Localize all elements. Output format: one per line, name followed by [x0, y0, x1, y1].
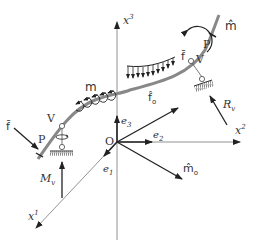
x1-label: x1	[28, 209, 39, 223]
reaction-left-label: Mv	[39, 172, 55, 187]
rod-curve	[38, 15, 219, 159]
e1-label: e1	[103, 163, 113, 177]
e3-label: e3	[121, 115, 132, 129]
origin-force-label: f̂o	[148, 91, 156, 106]
distributed-force-label: f̄	[181, 50, 186, 63]
end-force-left-arrow	[14, 128, 38, 149]
rod-diagram: x3 x2 x1 O e3 e2 e1 m f̄ m̂ f̄ f̂o m̂o R…	[0, 0, 259, 244]
m-o-vector	[117, 142, 182, 179]
end-force-left-label: f̄	[6, 120, 11, 133]
distributed-moment-label: m	[85, 80, 97, 94]
e2-label: e2	[153, 129, 164, 143]
origin-label: O	[105, 135, 114, 148]
right-point-V-label: V	[195, 53, 205, 66]
right-point-P-label: P	[203, 38, 211, 51]
x2-label: x2	[235, 123, 246, 137]
x3-label: x3	[123, 13, 134, 27]
reaction-right-label: Rv	[222, 98, 235, 113]
distributed-force-arrows	[127, 57, 175, 78]
left-point-P-label: P	[38, 133, 46, 146]
left-point-V-label: V	[46, 112, 56, 125]
end-moment-right-label: m̂	[225, 19, 237, 33]
origin-moment-label: m̂o	[183, 162, 198, 177]
